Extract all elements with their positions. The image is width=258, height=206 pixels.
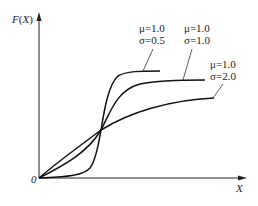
leader-line-sigma-2 (213, 84, 223, 98)
annotation-sigma-0-5: μ=1.0 σ=0.5 (139, 22, 165, 46)
x-axis-label: X (235, 182, 244, 194)
annotation-mu: μ=1.0 (184, 22, 210, 34)
leader-line-sigma-0-5 (143, 49, 153, 71)
annotation-sigma-1: μ=1.0 σ=1.0 (184, 22, 210, 46)
annotation-sigma: σ=1.0 (184, 34, 210, 46)
annotation-sigma: σ=0.5 (139, 34, 165, 46)
leader-line-sigma-1 (183, 49, 192, 80)
annotation-mu: μ=1.0 (210, 58, 236, 70)
cdf-chart: F(X) 0 X μ=1.0 σ=0.5 μ=1.0 σ=1.0 μ=1.0 σ… (0, 0, 258, 206)
curve-sigma-2 (39, 98, 214, 178)
y-axis-label: F(X) (11, 13, 33, 26)
annotation-sigma-2: μ=1.0 σ=2.0 (210, 58, 236, 82)
x-axis-arrow-icon (238, 176, 247, 181)
curve-sigma-1 (39, 80, 205, 178)
y-axis-arrow-icon (37, 12, 42, 21)
annotation-sigma: σ=2.0 (210, 70, 236, 82)
annotation-mu: μ=1.0 (139, 22, 165, 34)
curve-sigma-0-5 (39, 71, 160, 178)
origin-label: 0 (31, 173, 37, 185)
